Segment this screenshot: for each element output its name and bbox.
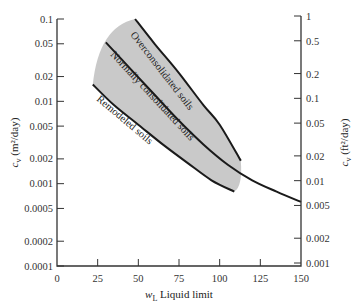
y-left-tick-label: 0.01	[35, 96, 53, 107]
y-right-tick-label: 0.05	[306, 118, 324, 129]
y-right-tick-label: 0.02	[306, 151, 324, 162]
y-right-tick-label: 0.002	[306, 233, 330, 244]
x-tick-label: 100	[212, 273, 228, 284]
y-left-tick-label: 0.0001	[24, 261, 53, 272]
x-axis-title: wL Liquid limit	[145, 288, 213, 303]
x-tick-label: 0	[54, 273, 59, 284]
x-tick-label: 75	[174, 273, 185, 284]
y-left-tick-label: 0.005	[29, 121, 53, 132]
y-left-tick-label: 0.001	[29, 178, 53, 189]
y-left-tick-label: 0.02	[35, 71, 53, 82]
x-tick-label: 150	[293, 273, 309, 284]
y-left-tick-label: 0.0002	[24, 236, 53, 247]
y-right-tick-label: 0.2	[306, 69, 319, 80]
y-right-tick-label: 0.001	[306, 258, 330, 269]
y-left-axis-title: cv (m²/day)	[8, 117, 23, 167]
x-tick-label: 25	[92, 273, 103, 284]
y-right-axis-title: cv (ft²/day)	[338, 118, 353, 166]
y-left-tick-label: 0.002	[29, 153, 53, 164]
x-tick-label: 50	[133, 273, 144, 284]
y-right-tick-label: 0.005	[306, 200, 330, 211]
y-right-tick-label: 1	[306, 11, 311, 22]
y-right-tick-label: 0.1	[306, 93, 319, 104]
y-right-tick-label: 0.01	[306, 176, 324, 187]
y-left-tick-label: 0.1	[40, 14, 53, 25]
y-left-tick-label: 0.0005	[24, 203, 53, 214]
cv-vs-liquid-limit-chart: 02550751001251500.10.050.020.010.0050.00…	[0, 0, 360, 307]
y-left-tick-label: 0.05	[35, 38, 53, 49]
y-right-tick-label: 0.5	[306, 36, 319, 47]
x-tick-label: 125	[252, 273, 268, 284]
